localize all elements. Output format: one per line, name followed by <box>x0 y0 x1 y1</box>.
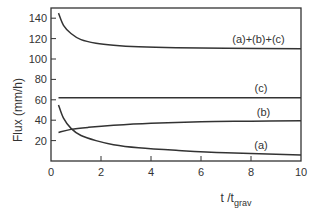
y-tick-label: 20 <box>35 135 47 147</box>
y-tick-label: 100 <box>29 53 47 65</box>
x-axis-title-main: t /t <box>221 191 235 205</box>
x-tick-label: 8 <box>248 166 254 178</box>
y-tick-label: 140 <box>29 12 47 24</box>
x-axis-title-subscript: grav <box>234 198 252 208</box>
y-tick-label: 80 <box>35 73 47 85</box>
y-axis-title: Flux (mm/h) <box>11 78 25 142</box>
y-tick-label: 120 <box>29 33 47 45</box>
series-layer: (a)+(b)+(c)(c)(b)(a) <box>59 13 302 155</box>
series-label: (a)+(b)+(c) <box>232 33 285 45</box>
x-tick-label: 0 <box>48 166 54 178</box>
x-tick-label: 4 <box>148 166 154 178</box>
y-tick-label: 40 <box>35 114 47 126</box>
series-line <box>59 121 302 133</box>
x-tick-label: 2 <box>98 166 104 178</box>
series-label: (c) <box>255 82 268 94</box>
y-tick-label: 60 <box>35 94 47 106</box>
series-label: (b) <box>257 106 270 118</box>
x-tick-label: 6 <box>198 166 204 178</box>
series-label: (a) <box>254 139 267 151</box>
x-axis-title: t /tgrav <box>221 191 252 208</box>
flux-chart: (a)+(b)+(c)(c)(b)(a) 0246810204060801001… <box>0 0 315 211</box>
x-tick-label: 10 <box>295 166 307 178</box>
